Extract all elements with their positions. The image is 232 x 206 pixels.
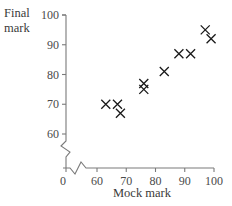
y-axis-label: Final mark bbox=[4, 6, 30, 36]
y-tick-label: 100 bbox=[41, 8, 59, 22]
scatter-chart: Final mark 60708090100607080901000 Mock … bbox=[0, 0, 232, 206]
data-point-x-marker bbox=[160, 67, 169, 76]
y-tick-label: 60 bbox=[47, 127, 59, 141]
y-axis-label-line-1: Final bbox=[4, 6, 30, 21]
plot-area: 60708090100607080901000 bbox=[0, 0, 232, 206]
y-axis-line bbox=[61, 15, 70, 168]
data-point-x-marker bbox=[139, 85, 148, 94]
data-point-x-marker bbox=[113, 100, 122, 109]
x-axis-line bbox=[63, 162, 214, 174]
data-point-x-marker bbox=[207, 34, 216, 43]
data-point-x-marker bbox=[186, 49, 195, 58]
data-point-x-marker bbox=[201, 25, 210, 34]
y-tick-label: 70 bbox=[47, 97, 59, 111]
y-tick-label: 90 bbox=[47, 38, 59, 52]
y-axis-label-line-2: mark bbox=[4, 21, 30, 36]
data-point-x-marker bbox=[174, 49, 183, 58]
data-point-x-marker bbox=[116, 109, 125, 118]
data-point-x-marker bbox=[101, 100, 110, 109]
y-tick-label: 80 bbox=[47, 68, 59, 82]
x-axis-label: Mock mark bbox=[0, 186, 232, 201]
